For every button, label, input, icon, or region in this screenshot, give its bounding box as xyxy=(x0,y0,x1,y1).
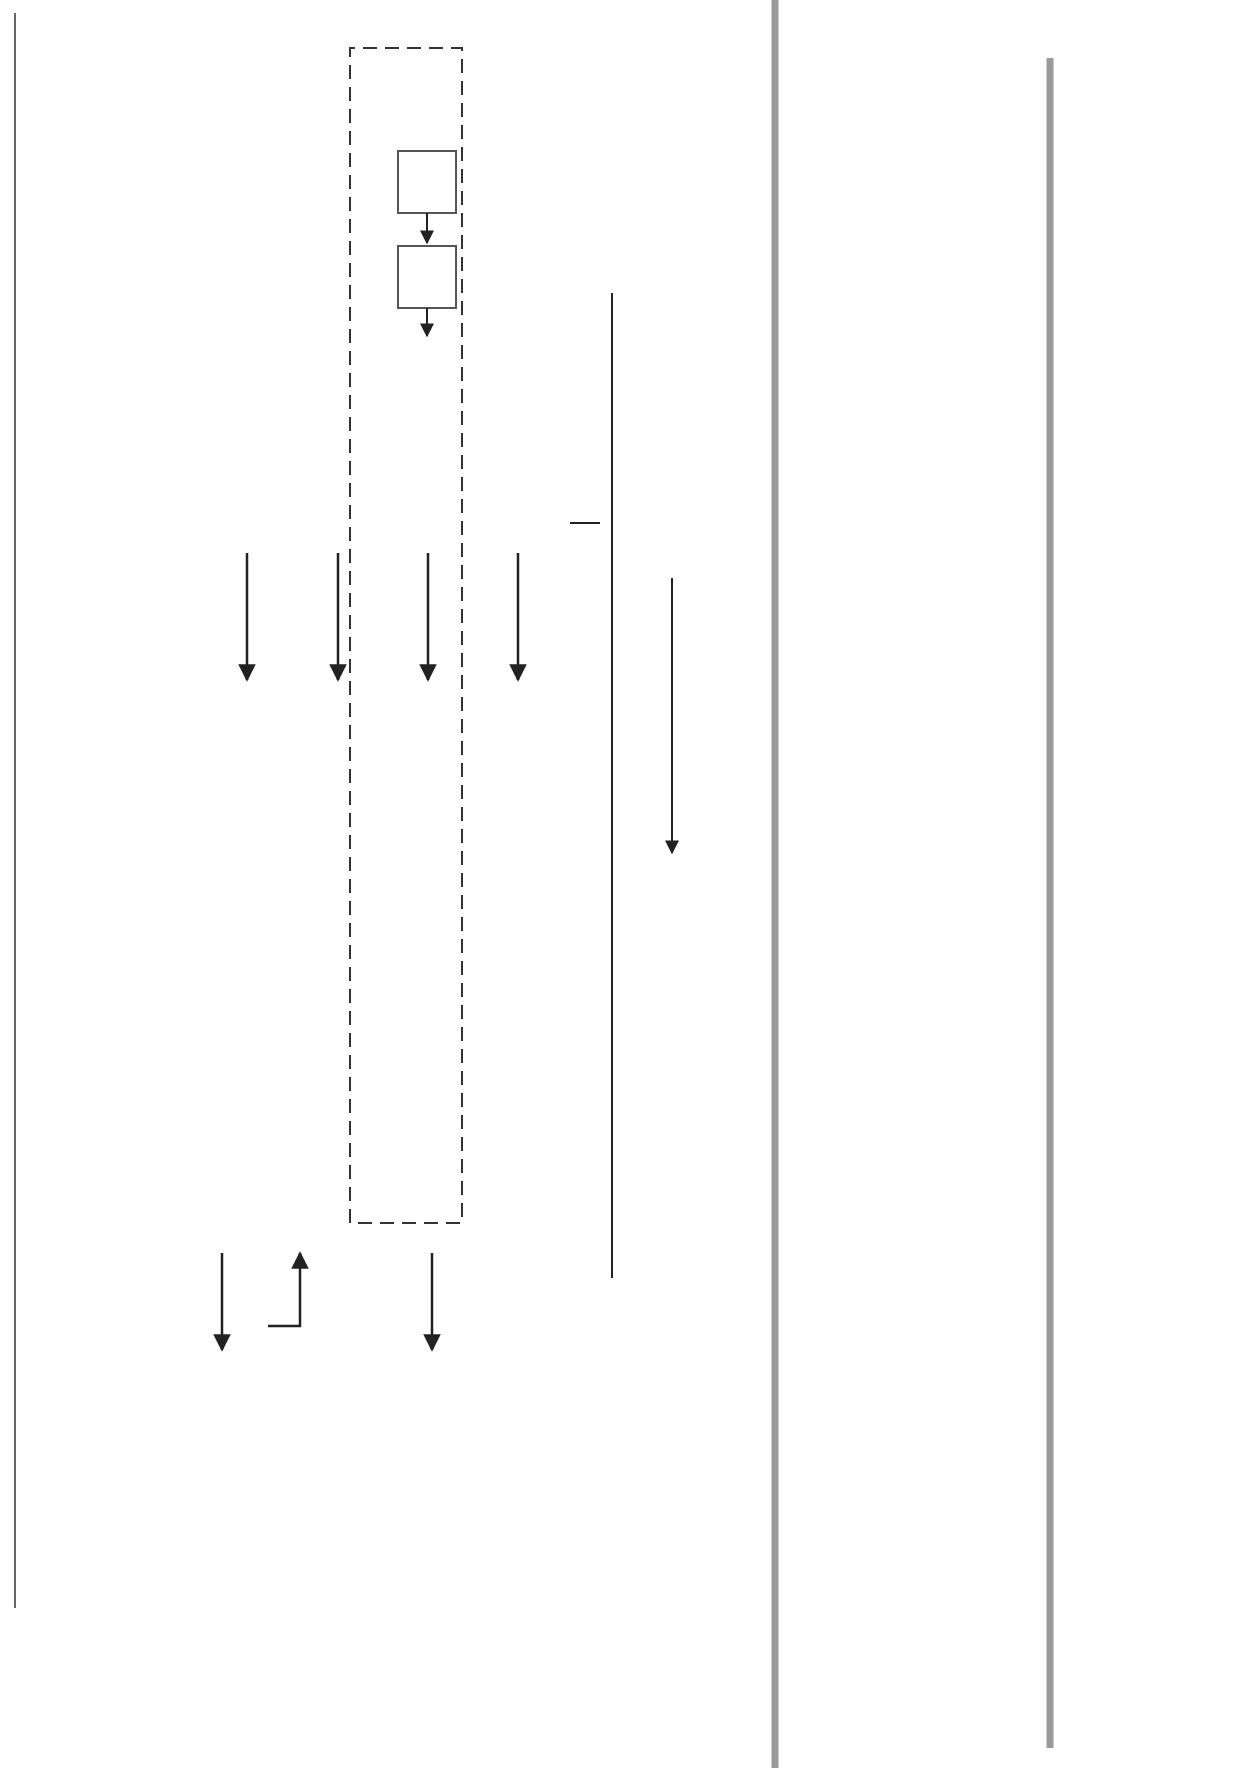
connector-lines xyxy=(0,0,1235,1768)
diagram-stage xyxy=(0,0,1235,1768)
